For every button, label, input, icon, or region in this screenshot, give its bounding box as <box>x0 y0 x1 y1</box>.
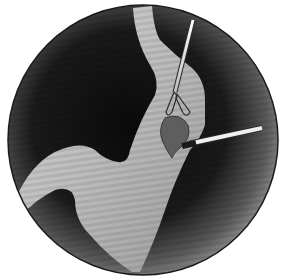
endoscopic-illustration <box>0 0 285 279</box>
endoscopic-field <box>0 0 285 279</box>
illustration-canvas <box>0 0 285 279</box>
